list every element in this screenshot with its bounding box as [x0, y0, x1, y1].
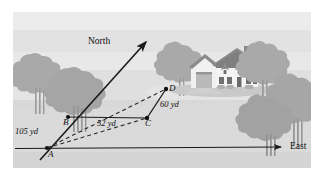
distance-label-52yd: 52 yd: [97, 119, 116, 128]
distance-label-60yd: 60 yd: [160, 100, 179, 109]
point-label-D: D: [169, 84, 176, 93]
scene: [13, 12, 311, 168]
point-label-C: C: [145, 119, 151, 128]
distance-label-105yd: 105 yd: [15, 127, 38, 136]
point-label-B: B: [63, 118, 69, 127]
point-D-dot: [164, 87, 168, 91]
diagram-lines: [13, 12, 311, 168]
east-label: East: [290, 142, 306, 152]
north-label: North: [88, 37, 110, 47]
point-label-A: A: [48, 150, 54, 159]
east-axis-line: [15, 147, 281, 149]
north-axis-line: [40, 42, 146, 160]
figure-canvas: North East A B C D 105 yd 52 yd 60 yd: [0, 0, 322, 180]
